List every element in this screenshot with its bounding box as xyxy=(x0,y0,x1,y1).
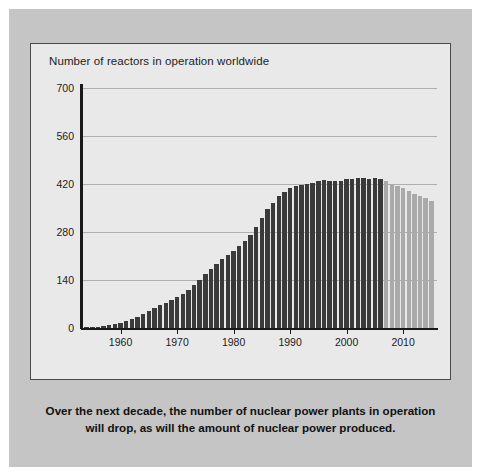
chart-container: Number of reactors in operation worldwid… xyxy=(30,43,451,380)
bar xyxy=(429,201,433,328)
bar xyxy=(175,297,179,328)
bar xyxy=(316,181,320,328)
bar xyxy=(203,274,207,328)
bar xyxy=(158,305,162,328)
bar xyxy=(277,196,281,328)
bar xyxy=(265,209,269,328)
bar xyxy=(418,196,422,328)
x-axis-ticks: 196019701980199020002010 xyxy=(81,330,437,352)
bar xyxy=(390,184,394,328)
bar xyxy=(401,188,405,328)
x-axis-tick-label: 1970 xyxy=(165,336,188,348)
x-axis-tick-label: 1980 xyxy=(222,336,245,348)
x-axis-tick xyxy=(347,330,348,334)
bar xyxy=(378,179,382,328)
x-axis-tick xyxy=(290,330,291,334)
figure-caption: Over the next decade, the number of nucl… xyxy=(35,402,446,436)
bar xyxy=(322,180,326,328)
bar xyxy=(356,178,360,328)
figure-panel: Number of reactors in operation worldwid… xyxy=(9,9,472,467)
bar xyxy=(220,259,224,328)
bar xyxy=(361,178,365,328)
bar xyxy=(214,264,218,328)
bar xyxy=(248,235,252,328)
bar xyxy=(294,186,298,328)
bar xyxy=(288,188,292,328)
y-axis-tick-label: 560 xyxy=(56,130,74,142)
bar xyxy=(305,184,309,328)
y-axis-line xyxy=(80,84,83,329)
bar xyxy=(271,203,275,328)
bar xyxy=(412,194,416,328)
x-axis-tick-label: 1990 xyxy=(278,336,301,348)
bar xyxy=(339,181,343,328)
x-axis-tick xyxy=(177,330,178,334)
gridline xyxy=(81,136,437,137)
bar xyxy=(310,183,314,328)
bar xyxy=(260,218,264,328)
bar xyxy=(350,179,354,328)
x-axis-tick-label: 1960 xyxy=(109,336,132,348)
gridline xyxy=(81,88,437,89)
bar xyxy=(124,321,128,328)
bar xyxy=(147,311,151,328)
y-axis-tick-label: 700 xyxy=(56,82,74,94)
bar xyxy=(384,181,388,328)
bar xyxy=(169,300,173,328)
bar xyxy=(209,269,213,328)
bar xyxy=(186,290,190,328)
bar xyxy=(164,303,168,328)
bar xyxy=(299,185,303,328)
bar xyxy=(243,241,247,328)
bar xyxy=(226,255,230,328)
plot-area: 0140280420560700 xyxy=(81,88,437,328)
bar xyxy=(152,308,156,328)
bar xyxy=(344,179,348,328)
bar xyxy=(373,178,377,328)
bar xyxy=(135,317,139,328)
y-axis-tick-label: 420 xyxy=(56,178,74,190)
bar xyxy=(141,314,145,328)
bar xyxy=(237,246,241,328)
x-axis-tick xyxy=(403,330,404,334)
y-axis-tick-label: 140 xyxy=(56,274,74,286)
chart-title: Number of reactors in operation worldwid… xyxy=(49,55,269,67)
x-axis-tick xyxy=(121,330,122,334)
bar xyxy=(192,285,196,328)
y-axis-tick-label: 280 xyxy=(56,226,74,238)
bar xyxy=(130,319,134,328)
bar xyxy=(254,227,258,328)
bar xyxy=(395,186,399,328)
bar xyxy=(423,198,427,328)
bar xyxy=(282,192,286,328)
bar xyxy=(181,294,185,328)
bar xyxy=(367,179,371,328)
bar xyxy=(327,181,331,328)
bar xyxy=(231,251,235,328)
y-axis-tick-label: 0 xyxy=(68,322,74,334)
bar xyxy=(197,280,201,328)
x-axis-tick-label: 2010 xyxy=(391,336,414,348)
bar xyxy=(407,191,411,328)
x-axis-tick xyxy=(234,330,235,334)
bar xyxy=(333,181,337,328)
x-axis-tick-label: 2000 xyxy=(335,336,358,348)
